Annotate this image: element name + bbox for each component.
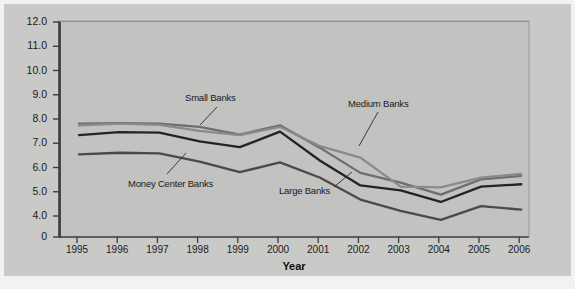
y-tick-label: 0 (41, 230, 47, 242)
y-tick-label: 10.0 (27, 64, 47, 76)
figure-card: Gross Interest Income (as % of Assets) 1… (0, 0, 575, 289)
series-annotation-large-banks: Large Banks (279, 185, 330, 196)
y-tick-label: 7.0 (32, 136, 47, 148)
x-tick-label: 2000 (267, 244, 289, 255)
x-tick-label: 2005 (468, 244, 490, 255)
x-tick-label: 2003 (387, 244, 409, 255)
series-annotation-money-center-banks: Money Center Banks (128, 178, 213, 189)
y-tick-label: 6.0 (32, 161, 47, 173)
y-axis-tick-labels: 12.011.010.09.08.07.06.05.04.00 (4, 4, 53, 264)
y-tick-label: 12.0 (27, 15, 47, 27)
x-tick-label: 1996 (106, 244, 128, 255)
x-tick-label: 1998 (186, 244, 208, 255)
plot-area (59, 21, 529, 238)
chart-lines-svg (61, 22, 531, 239)
x-tick-label: 2004 (428, 244, 450, 255)
y-tick-label: 5.0 (32, 185, 47, 197)
y-tick-label: 9.0 (32, 88, 47, 100)
series-annotation-small-banks: Small Banks (185, 92, 236, 103)
x-tick-label: 2001 (307, 244, 329, 255)
x-tick-label: 1995 (66, 244, 88, 255)
y-tick-label: 8.0 (32, 112, 47, 124)
x-tick-label: 2006 (508, 244, 530, 255)
x-axis-title: Year (59, 260, 529, 272)
series-annotation-medium-banks: Medium Banks (348, 98, 408, 109)
chart-page: Gross Interest Income (as % of Assets) 1… (0, 0, 575, 289)
x-tick-label: 1999 (227, 244, 249, 255)
y-tick-label: 11.0 (27, 39, 47, 51)
y-tick-label: 4.0 (32, 209, 47, 221)
x-axis-tick-labels: 1995199619971998199920002001200220032004… (4, 244, 571, 260)
figure-panel: Gross Interest Income (as % of Assets) 1… (4, 4, 571, 276)
x-tick-label: 2002 (347, 244, 369, 255)
x-tick-label: 1997 (146, 244, 168, 255)
